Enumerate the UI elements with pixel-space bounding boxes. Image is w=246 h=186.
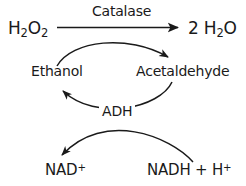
nadhh-base: NADH + H: [147, 161, 223, 179]
pathway-diagram: H2O2 2 H2O Catalase Ethanol Acetaldehyde…: [0, 0, 246, 186]
h2o2-sub-1: 2: [21, 26, 28, 40]
node-nadh-h-plus: NADH + H+: [147, 163, 231, 178]
water-coefficient: 2 H: [188, 18, 216, 38]
node-ethanol: Ethanol: [31, 64, 83, 78]
enzyme-label-adh: ADH: [99, 104, 135, 118]
nad-charge: +: [77, 162, 85, 173]
h2o2-o: O: [28, 18, 41, 38]
nadhh-to-nad-arrow: [62, 131, 193, 162]
water-o: O: [224, 18, 237, 38]
node-water: 2 H2O: [188, 20, 237, 39]
nad-base: NAD: [45, 161, 77, 179]
node-hydrogen-peroxide: H2O2: [8, 20, 48, 39]
h2o2-sub-2: 2: [41, 26, 48, 40]
nadhh-charge: +: [223, 162, 231, 173]
water-sub-1: 2: [216, 26, 223, 40]
enzyme-label-catalase: Catalase: [92, 4, 151, 18]
node-nad-plus: NAD+: [45, 163, 86, 178]
node-acetaldehyde: Acetaldehyde: [136, 64, 229, 78]
h2o2-h: H: [8, 18, 21, 38]
